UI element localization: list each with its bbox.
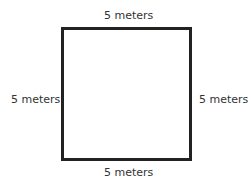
left-side-label: 5 meters xyxy=(11,93,60,106)
bottom-side-label: 5 meters xyxy=(104,166,153,179)
square-shape xyxy=(61,27,192,161)
top-side-label: 5 meters xyxy=(104,9,153,22)
right-side-label: 5 meters xyxy=(199,93,248,106)
